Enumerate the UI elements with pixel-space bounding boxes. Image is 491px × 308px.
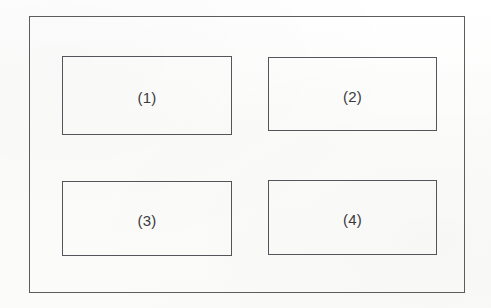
block-4-label: (4) — [343, 212, 362, 227]
block-2-label: (2) — [343, 89, 362, 104]
block-2: (2) — [268, 57, 437, 131]
block-3: (3) — [62, 181, 232, 256]
diagram-canvas: (1) (2) (3) (4) — [0, 0, 491, 308]
block-1: (1) — [62, 56, 232, 135]
block-4: (4) — [268, 180, 437, 255]
block-1-label: (1) — [137, 90, 156, 105]
block-3-label: (3) — [137, 213, 156, 228]
